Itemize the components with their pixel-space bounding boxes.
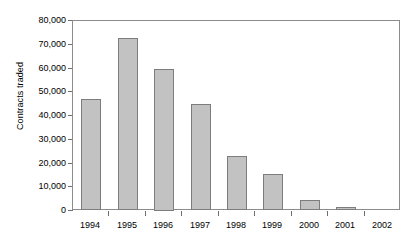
x-tick-mark bbox=[218, 211, 219, 216]
x-tick-mark bbox=[108, 211, 109, 216]
y-tick-label: 70,000 bbox=[6, 39, 66, 49]
bar bbox=[263, 174, 283, 210]
x-tick-mark bbox=[181, 211, 182, 216]
bar bbox=[191, 104, 211, 210]
bar-chart: Contracts traded 010,00020,00030,00040,0… bbox=[0, 0, 415, 242]
x-tick-label: 2001 bbox=[325, 220, 365, 231]
bar bbox=[118, 38, 138, 210]
x-tick-label: 1995 bbox=[107, 220, 147, 231]
x-tick-label: 1999 bbox=[252, 220, 292, 231]
plot-area bbox=[72, 20, 400, 210]
x-tick-label: 1996 bbox=[143, 220, 183, 231]
bar bbox=[227, 156, 247, 210]
y-tick-label: 80,000 bbox=[6, 15, 66, 25]
y-tick-label: 50,000 bbox=[6, 86, 66, 96]
x-tick-label: 2000 bbox=[289, 220, 329, 231]
bar bbox=[81, 99, 101, 210]
x-tick-mark bbox=[364, 211, 365, 216]
x-tick-mark bbox=[145, 211, 146, 216]
y-tick-label: 30,000 bbox=[6, 134, 66, 144]
bar bbox=[336, 207, 356, 210]
x-tick-label: 1997 bbox=[180, 220, 220, 231]
y-tick-label: 10,000 bbox=[6, 181, 66, 191]
bar bbox=[300, 200, 320, 210]
x-tick-mark bbox=[254, 211, 255, 216]
bar bbox=[154, 69, 174, 211]
y-tick-label: 40,000 bbox=[6, 110, 66, 120]
x-tick-label: 2002 bbox=[362, 220, 402, 231]
y-tick-label: 60,000 bbox=[6, 63, 66, 73]
y-tick-label: 20,000 bbox=[6, 158, 66, 168]
x-tick-mark bbox=[291, 211, 292, 216]
y-tick-label: 0 bbox=[6, 205, 66, 215]
x-tick-label: 1994 bbox=[70, 220, 110, 231]
x-tick-label: 1998 bbox=[216, 220, 256, 231]
x-tick-mark bbox=[327, 211, 328, 216]
y-tick-mark bbox=[68, 210, 73, 211]
